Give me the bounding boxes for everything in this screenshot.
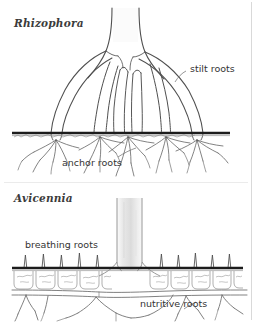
label-anchor-roots: anchor roots xyxy=(62,157,122,168)
label-stilt-roots: stilt roots xyxy=(190,63,235,74)
anchor-roots-drawing xyxy=(18,137,228,176)
label-breathing-roots: breathing roots xyxy=(25,239,98,250)
avicennia-trunk xyxy=(99,198,160,276)
label-nutritive-roots: nutritive roots xyxy=(140,298,207,309)
mangrove-root-systems-figure: Rhizophora stilt roots anchor roots Avic… xyxy=(0,0,259,322)
nutritive-roots-drawing xyxy=(12,290,247,321)
page-rules xyxy=(4,2,252,320)
diagram-artwork xyxy=(0,0,259,322)
rhizophora-ground-line xyxy=(12,133,230,137)
panel-title-avicennia: Avicennia xyxy=(14,192,73,204)
soil-compartments xyxy=(14,271,243,289)
stilt-roots-leader xyxy=(175,71,186,82)
anchor-roots-leader xyxy=(118,148,136,157)
panel-title-rhizophora: Rhizophora xyxy=(14,17,84,29)
